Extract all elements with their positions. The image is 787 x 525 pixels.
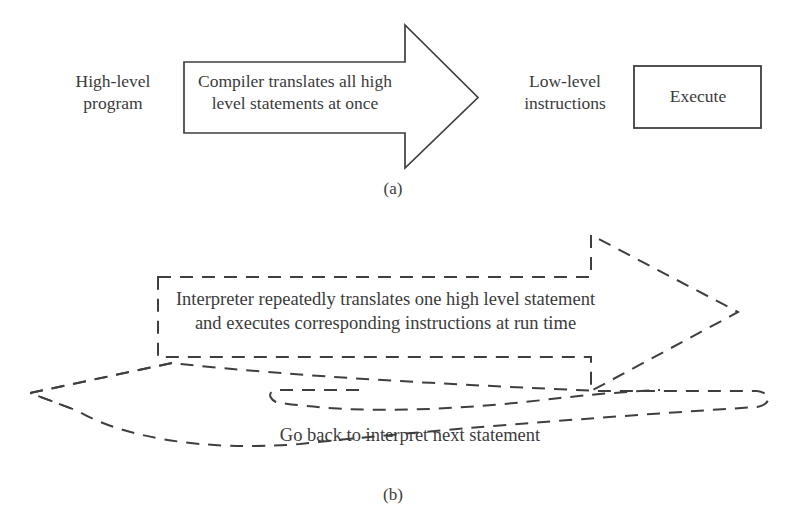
go-back-loop-label: Go back to interpret next statement [270,424,550,448]
caption-a: (a) [358,178,428,200]
go-back-loop-inner-edge [270,390,660,410]
go-back-arrowhead [30,363,172,411]
interpreter-arrow-label: Interpreter repeatedly translates one hi… [158,288,613,335]
caption-b: (b) [358,484,428,506]
figure-compiler-vs-interpreter: High-level program Compiler translates a… [0,0,787,525]
low-level-instructions-label: Low-level instructions [500,70,630,115]
compiler-arrow-label: Compiler translates all high level state… [190,70,400,115]
high-level-program-label: High-level program [48,70,178,115]
execute-box-label: Execute [634,85,762,107]
